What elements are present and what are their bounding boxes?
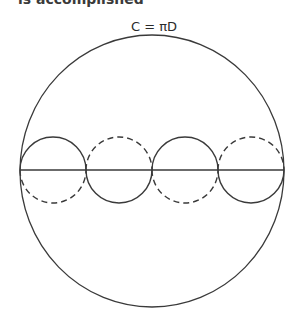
cropped-heading-text: is accomplished — [18, 0, 144, 7]
small-circle-4-bottom-arc — [218, 170, 284, 203]
small-circle-3-top-arc — [152, 137, 218, 170]
formula-label: C = πD — [131, 19, 177, 34]
small-circle-2-bottom-arc — [86, 170, 152, 203]
small-circle-1-bottom-arc — [20, 170, 86, 203]
small-circle-2-top-arc — [86, 137, 152, 170]
small-circle-4-top-arc — [218, 137, 284, 170]
small-circle-3-bottom-arc — [152, 170, 218, 203]
small-circle-1-top-arc — [20, 137, 86, 170]
circumference-diagram: is accomplished C = πD — [0, 0, 296, 312]
